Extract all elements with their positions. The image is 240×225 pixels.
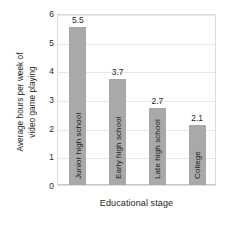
bar-category-label: Early high school bbox=[113, 116, 122, 179]
y-axis-tick-label: 1 bbox=[38, 152, 54, 162]
bar-category-label: Late high school bbox=[153, 119, 162, 179]
y-axis-tick-label: 2 bbox=[38, 124, 54, 134]
bar-group: College2.1 bbox=[189, 15, 206, 185]
y-axis-tick-labels: 0123456 bbox=[38, 14, 54, 186]
y-axis-tick-label: 5 bbox=[38, 38, 54, 48]
x-axis-title: Educational stage bbox=[57, 198, 216, 208]
bar-category-label: College bbox=[193, 151, 202, 179]
bar[interactable]: Late high school bbox=[149, 108, 166, 185]
bar-group: Late high school2.7 bbox=[149, 15, 166, 185]
bar-value-label: 2.1 bbox=[191, 113, 203, 123]
bar-series: Junior high school5.5Early high school3.… bbox=[58, 15, 215, 185]
plot-area: Junior high school5.5Early high school3.… bbox=[57, 14, 216, 186]
y-axis-title-line-2: video game playing bbox=[26, 53, 38, 152]
bar-value-label: 3.7 bbox=[112, 67, 124, 77]
bar-group: Early high school3.7 bbox=[109, 15, 126, 185]
y-axis-tick-label: 3 bbox=[38, 95, 54, 105]
bar[interactable]: Early high school bbox=[109, 79, 126, 185]
y-axis-tick-label: 4 bbox=[38, 66, 54, 76]
bar-value-label: 2.7 bbox=[152, 96, 164, 106]
y-axis-tick-label: 6 bbox=[38, 9, 54, 19]
bar[interactable]: College bbox=[189, 125, 206, 185]
bar-category-label: Junior high school bbox=[73, 113, 82, 179]
y-axis-tick-label: 0 bbox=[38, 181, 54, 191]
y-axis-title-line-1: Average hours per week of bbox=[15, 53, 27, 152]
bar[interactable]: Junior high school bbox=[69, 27, 86, 185]
bar-value-label: 5.5 bbox=[72, 15, 84, 25]
bar-group: Junior high school5.5 bbox=[69, 15, 86, 185]
bar-chart-figure: Average hours per week of video game pla… bbox=[0, 0, 240, 225]
